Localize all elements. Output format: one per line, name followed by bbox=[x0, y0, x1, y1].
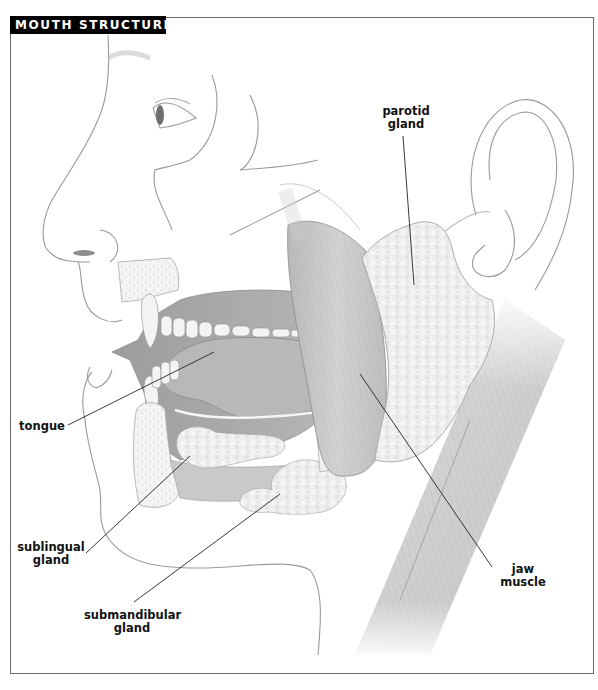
label-jaw-muscle: jaw muscle bbox=[497, 563, 549, 589]
submandibular-leader-line bbox=[134, 494, 280, 602]
label-submandibular-gland: submandibular gland bbox=[84, 609, 180, 635]
label-jaw-line2: muscle bbox=[497, 576, 549, 589]
label-tongue-line1: tongue bbox=[18, 420, 66, 433]
label-submandibular-line2: gland bbox=[84, 622, 180, 635]
label-tongue: tongue bbox=[18, 420, 66, 433]
label-parotid-line2: gland bbox=[376, 118, 436, 131]
label-sublingual-line2: gland bbox=[16, 554, 86, 567]
label-parotid-gland: parotid gland bbox=[376, 105, 436, 131]
diagram-title: MOUTH STRUCTURE bbox=[10, 16, 166, 34]
label-sublingual-gland: sublingual gland bbox=[16, 541, 86, 567]
